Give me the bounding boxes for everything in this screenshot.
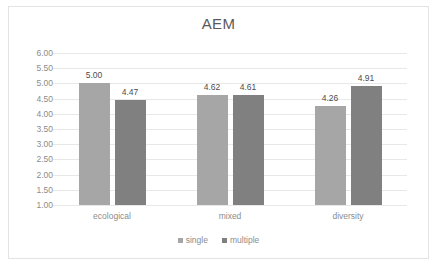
bar-value-label: 5.00	[86, 70, 103, 80]
y-axis-tick: 2.50	[21, 154, 53, 164]
y-axis-tick-labels: 6.005.505.004.504.003.503.002.502.001.50…	[21, 53, 53, 205]
y-axis-tick: 6.00	[21, 48, 53, 58]
y-axis-tick: 4.00	[21, 109, 53, 119]
legend-item-single[interactable]: single	[178, 235, 208, 245]
x-axis-category-mixed: mixed	[219, 211, 242, 221]
legend-label: single	[186, 235, 208, 245]
y-axis-tick: 1.00	[21, 200, 53, 210]
y-axis-tick: 3.50	[21, 124, 53, 134]
legend-swatch-icon	[222, 238, 227, 243]
y-axis-tick: 2.00	[21, 170, 53, 180]
gridline	[53, 53, 407, 54]
legend-label: multiple	[230, 235, 259, 245]
y-axis-tick: 3.00	[21, 139, 53, 149]
bar-diversity-single[interactable]	[315, 106, 346, 205]
y-axis-tick: 4.50	[21, 94, 53, 104]
bar-value-label: 4.62	[204, 82, 221, 92]
chart-title: AEM	[9, 15, 428, 32]
plot-area: 5.004.474.624.614.264.91	[53, 53, 407, 205]
gridline	[53, 68, 407, 69]
bar-mixed-single[interactable]	[197, 95, 228, 205]
bar-diversity-multiple[interactable]	[351, 86, 382, 205]
bar-value-label: 4.26	[322, 93, 339, 103]
bar-value-label: 4.91	[358, 73, 375, 83]
gridline	[53, 205, 407, 206]
x-axis-category-diversity: diversity	[332, 211, 363, 221]
bar-ecological-single[interactable]	[79, 83, 110, 205]
y-axis-tick: 5.50	[21, 63, 53, 73]
legend-item-multiple[interactable]: multiple	[222, 235, 259, 245]
legend-swatch-icon	[178, 238, 183, 243]
chart-legend: singlemultiple	[9, 235, 428, 245]
bar-ecological-multiple[interactable]	[115, 100, 146, 205]
bar-value-label: 4.47	[122, 87, 139, 97]
chart-container: AEM 6.005.505.004.504.003.503.002.502.00…	[8, 6, 429, 259]
x-axis-category-ecological: ecological	[93, 211, 131, 221]
y-axis-tick: 1.50	[21, 185, 53, 195]
bar-mixed-multiple[interactable]	[233, 95, 264, 205]
y-axis-tick: 5.00	[21, 78, 53, 88]
bar-value-label: 4.61	[240, 82, 257, 92]
